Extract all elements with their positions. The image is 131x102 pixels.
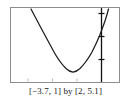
window-caption: [−3.7, 1] by [2, 5.1] — [0, 85, 131, 97]
graph-figure: [−3.7, 1] by [2, 5.1] — [0, 0, 131, 102]
plot-area — [11, 8, 119, 82]
calculator-screen-frame — [10, 7, 120, 83]
parabola-curve — [31, 9, 109, 72]
